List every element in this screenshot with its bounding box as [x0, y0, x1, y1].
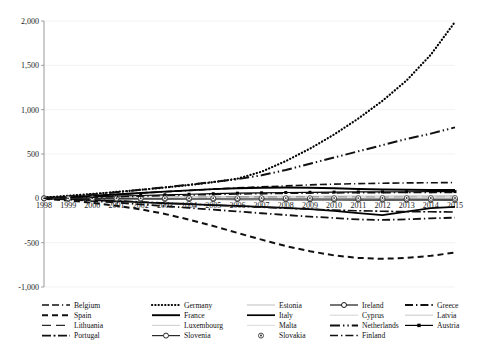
legend-label: Italy: [279, 311, 293, 320]
legend-item-lithuania: Lithuania: [42, 321, 104, 330]
legend: BelgiumSpainLithuaniaPortugalGermanyFran…: [42, 301, 460, 341]
y-tick-label: -500: [24, 239, 39, 248]
legend-label: Ireland: [362, 301, 384, 310]
legend-label: Slovakia: [279, 331, 306, 340]
legend-label: Spain: [74, 311, 92, 320]
legend-label: Lithuania: [74, 321, 104, 330]
legend-label: Greece: [437, 301, 459, 310]
legend-item-cyprus: Cyprus: [330, 311, 384, 320]
series-marker-dot: [357, 197, 359, 199]
chart-container: 2,0001,5001,0005000-500-1,00019981999200…: [0, 0, 493, 343]
legend-label: Germany: [184, 301, 212, 310]
y-tick-label: -1,000: [18, 283, 39, 292]
legend-item-spain: Spain: [42, 311, 92, 320]
series-marker-dot: [237, 197, 239, 199]
y-tick-label: 2,000: [21, 17, 39, 26]
legend-label: Latvia: [437, 311, 457, 320]
series-marker-dot: [406, 197, 408, 199]
series-marker-dot: [116, 197, 118, 199]
y-axis-ticks: 2,0001,5001,0005000-500-1,000: [18, 17, 44, 292]
series-marker-dot: [309, 197, 311, 199]
x-tick-label: 1999: [60, 201, 76, 210]
x-tick-label: 2004: [181, 201, 197, 210]
series-marker-dot: [333, 197, 335, 199]
series-marker-dot: [430, 197, 432, 199]
legend-swatch-marker: [417, 324, 420, 327]
legend-label: Netherlands: [362, 321, 399, 330]
legend-label: Portugal: [74, 331, 100, 340]
series-marker-dot: [285, 197, 287, 199]
legend-label: Austria: [437, 321, 460, 330]
legend-item-finland: Finland: [330, 331, 385, 340]
legend-label: Estonia: [279, 301, 302, 310]
legend-label: France: [184, 311, 205, 320]
series-marker-dot: [382, 197, 384, 199]
legend-item-france: France: [152, 311, 205, 320]
legend-item-estonia: Estonia: [247, 301, 302, 310]
series-marker-dot: [164, 197, 166, 199]
legend-item-malta: Malta: [247, 321, 297, 330]
legend-item-ireland: Ireland: [330, 301, 384, 310]
legend-label: Cyprus: [362, 311, 384, 320]
x-tick-label: 2012: [374, 201, 390, 210]
legend-item-slovenia: Slovenia: [152, 331, 211, 340]
legend-item-belgium: Belgium: [42, 301, 100, 310]
legend-item-portugal: Portugal: [42, 331, 100, 340]
y-tick-label: 1,500: [21, 61, 39, 70]
series-marker-dot: [140, 197, 142, 199]
legend-item-austria: Austria: [405, 321, 460, 330]
legend-swatch-marker: [342, 303, 347, 308]
legend-item-latvia: Latvia: [405, 311, 457, 320]
y-tick-label: 500: [27, 150, 39, 159]
x-tick-label: 2010: [326, 201, 342, 210]
series-marker: [454, 190, 457, 193]
legend-label: Finland: [362, 331, 385, 340]
legend-item-slovakia: Slovakia: [259, 331, 307, 340]
legend-label: Luxembourg: [184, 321, 223, 330]
series-marker-dot: [454, 197, 456, 199]
y-tick-label: 1,000: [21, 106, 39, 115]
series-marker-dot: [261, 197, 263, 199]
legend-label: Malta: [279, 321, 297, 330]
series-marker-dot: [188, 197, 190, 199]
legend-item-luxembourg: Luxembourg: [152, 321, 223, 330]
series-marker-dot: [212, 197, 214, 199]
series-marker-dot: [67, 197, 69, 199]
legend-swatch-marker-dot: [260, 335, 262, 337]
x-tick-label: 2011: [350, 201, 366, 210]
x-tick-label: 1998: [36, 201, 52, 210]
legend-item-netherlands: Netherlands: [330, 321, 399, 330]
legend-label: Belgium: [74, 301, 100, 310]
legend-swatch-marker: [164, 333, 169, 338]
line-chart: 2,0001,5001,0005000-500-1,00019981999200…: [0, 0, 493, 343]
legend-item-italy: Italy: [247, 311, 293, 320]
legend-label: Slovenia: [184, 331, 211, 340]
legend-item-germany: Germany: [152, 301, 212, 310]
legend-item-greece: Greece: [405, 301, 459, 310]
